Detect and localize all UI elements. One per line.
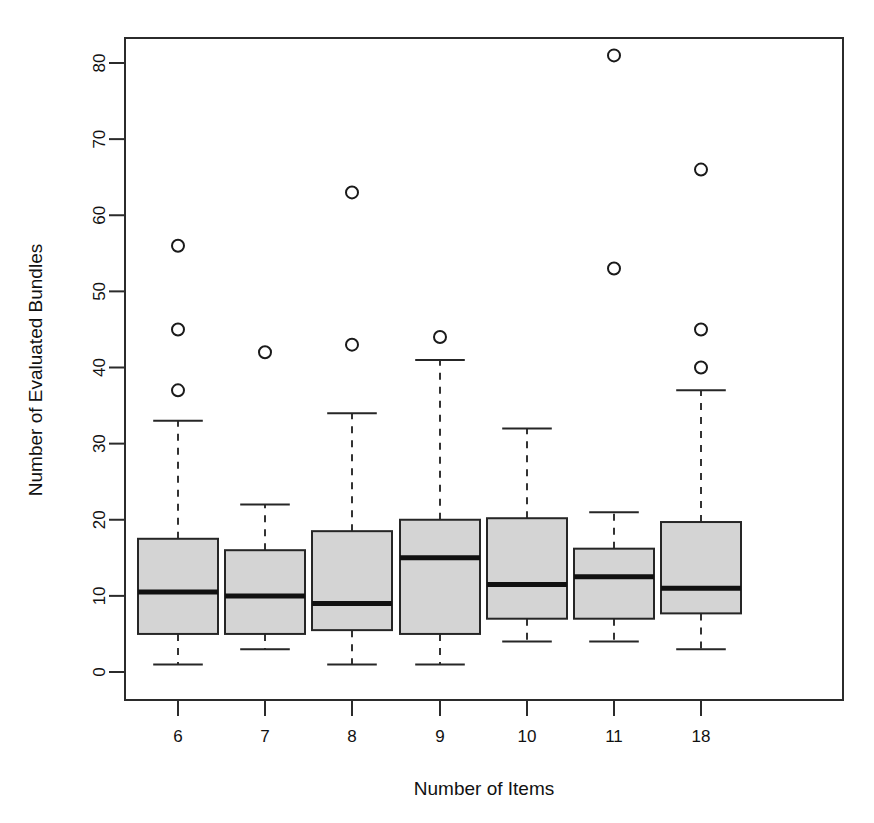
box-group [487,428,567,641]
y-tick-label: 80 [90,54,109,73]
box-group [574,49,654,641]
boxplot-chart: 01020304050607080 6789101118 Number of E… [0,0,874,823]
box-group [400,331,480,664]
x-tick-label: 7 [260,727,269,746]
x-tick-label: 8 [347,727,356,746]
outlier-point [172,323,184,335]
x-axis: 6789101118 [173,700,710,746]
x-axis-title: Number of Items [414,778,554,799]
outlier-point [434,331,446,343]
x-tick-label: 10 [518,727,537,746]
box-body [138,539,218,634]
box-body [225,550,305,634]
box-series [138,49,741,664]
outlier-point [346,186,358,198]
y-tick-label: 60 [90,206,109,225]
box-body [661,522,741,613]
x-tick-label: 6 [173,727,182,746]
y-axis: 01020304050607080 [90,54,126,677]
outlier-point [695,164,707,176]
y-tick-label: 50 [90,282,109,301]
box-group [138,240,218,665]
outlier-point [172,384,184,396]
y-tick-label: 70 [90,130,109,149]
box-group [225,346,305,649]
box-body [487,518,567,618]
y-tick-label: 10 [90,586,109,605]
y-tick-label: 20 [90,510,109,529]
box-body [574,549,654,619]
outlier-point [259,346,271,358]
box-body [312,531,392,630]
outlier-point [695,323,707,335]
box-group [661,164,741,650]
y-tick-label: 40 [90,358,109,377]
y-tick-label: 0 [90,667,109,676]
box-group [312,186,392,664]
y-tick-label: 30 [90,434,109,453]
x-tick-label: 9 [435,727,444,746]
boxplot-svg: 01020304050607080 6789101118 Number of E… [0,0,874,823]
outlier-point [172,240,184,252]
box-body [400,520,480,634]
outlier-point [346,339,358,351]
outlier-point [695,362,707,374]
y-axis-title: Number of Evaluated Bundles [25,244,46,496]
x-tick-label: 11 [605,727,623,746]
outlier-point [608,263,620,275]
outlier-point [608,49,620,61]
x-tick-label: 18 [692,727,711,746]
